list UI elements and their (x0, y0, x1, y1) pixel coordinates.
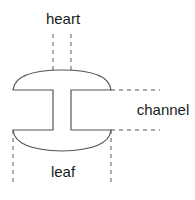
heart-label: heart (46, 10, 81, 27)
channel-label: channel (137, 101, 190, 118)
leaf-label: leaf (51, 163, 76, 180)
vessel-diagram: heart channel leaf (0, 0, 195, 200)
vessel-profile-shape (13, 70, 111, 151)
